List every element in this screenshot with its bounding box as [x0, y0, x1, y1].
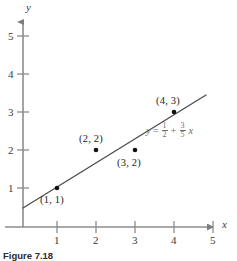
fraction-numerator: 1 [162, 122, 168, 130]
y-axis-label: y [26, 1, 31, 13]
x-tick-label-3: 3 [132, 234, 138, 246]
point-label-1-1: (1, 1) [40, 194, 64, 205]
equation-plus: + [171, 125, 177, 136]
fraction-denominator: 5 [180, 130, 186, 139]
y-tick-label-5: 5 [8, 30, 14, 42]
point-label-2-2: (2, 2) [79, 133, 103, 144]
y-tick-label-4: 4 [8, 68, 14, 80]
fraction-denominator: 2 [162, 130, 168, 139]
equation-annotation: y = 1 2 + 3 5 x [146, 122, 193, 140]
x-tick-label-1: 1 [54, 234, 60, 246]
y-tick-label-2: 2 [8, 144, 14, 156]
x-tick-label-2: 2 [93, 234, 99, 246]
equation-variable: x [189, 125, 194, 136]
y-tick-label-1: 1 [8, 182, 14, 194]
x-axis-label: x [222, 218, 227, 230]
data-point [94, 148, 99, 153]
equation-lhs: y [146, 125, 151, 136]
equation-fraction-one-half: 1 2 [162, 122, 168, 140]
equation-equals: = [153, 125, 159, 136]
data-point [172, 110, 177, 115]
x-tick-label-4: 4 [171, 234, 177, 246]
point-label-3-2: (3, 2) [117, 157, 141, 168]
equation-fraction-three-fifths: 3 5 [180, 122, 186, 140]
y-tick-label-3: 3 [8, 106, 14, 118]
data-point [133, 148, 138, 153]
data-point [55, 186, 60, 191]
regression-line [23, 95, 206, 208]
fraction-numerator: 3 [180, 122, 186, 130]
figure-caption: Figure 7.18 [3, 250, 53, 261]
point-label-4-3: (4, 3) [156, 95, 180, 106]
x-tick-label-5: 5 [210, 234, 216, 246]
figure-container: y x 1 2 3 4 5 1 2 3 4 5 (1, 1) (2, 2) (3… [0, 0, 237, 261]
scatter-plot [0, 0, 237, 261]
